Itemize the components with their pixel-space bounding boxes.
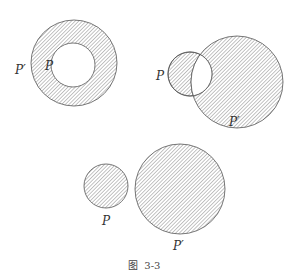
- panel-overlapping: P P′: [155, 36, 283, 129]
- label-p-prime: P′: [228, 115, 240, 129]
- inner-circle-p: [51, 43, 95, 87]
- label-p: P: [101, 214, 111, 228]
- figure-canvas: P′ P P P′ P P′ 图 3-3: [0, 0, 293, 274]
- label-p-prime: P′: [14, 63, 26, 77]
- panel-disjoint: P P′: [84, 144, 225, 253]
- panel-nested: P′ P: [14, 20, 117, 106]
- label-p: P: [44, 59, 54, 73]
- label-p-prime: P′: [172, 239, 184, 253]
- small-circle-p: [84, 164, 128, 208]
- large-circle-p-prime: [135, 144, 225, 234]
- label-p: P: [155, 69, 165, 83]
- figure-caption: 图 3-3: [128, 260, 160, 271]
